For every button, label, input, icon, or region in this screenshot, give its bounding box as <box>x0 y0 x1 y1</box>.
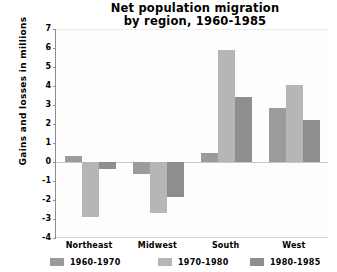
chart-title: Net population migration by region, 1960… <box>60 2 330 28</box>
category-label-south: South <box>212 241 239 250</box>
y-axis-tick-label: 2 <box>29 120 51 128</box>
y-axis-tick-label: 3 <box>29 101 51 109</box>
legend-item-1980-1985[interactable]: 1980-1985 <box>250 255 321 269</box>
y-axis-tick-label: -2 <box>29 196 51 204</box>
y-axis-tick-mark <box>53 200 56 201</box>
legend-item-1960-1970[interactable]: 1960-1970 <box>50 255 121 269</box>
legend-swatch-icon <box>50 258 64 266</box>
chart-legend: 1960-19701970-19801980-1985 <box>0 255 337 272</box>
legend-item-1970-1980[interactable]: 1970-1980 <box>158 255 229 269</box>
bar-west-1970-1980 <box>286 85 303 162</box>
y-axis-tick-label: -4 <box>29 234 51 242</box>
y-axis-tick-mark <box>53 67 56 68</box>
legend-label: 1970-1980 <box>178 258 229 267</box>
category-label-midwest: Midwest <box>138 241 177 250</box>
y-axis-tick-label: 4 <box>29 82 51 90</box>
bar-northeast-1960-1970 <box>65 156 82 162</box>
y-axis-tick-mark <box>53 48 56 49</box>
y-axis-tick-label: 7 <box>29 25 51 33</box>
y-axis-tick-label: 6 <box>29 44 51 52</box>
bar-midwest-1980-1985 <box>167 162 184 197</box>
category-label-northeast: Northeast <box>66 241 113 250</box>
y-axis-tick-mark <box>53 86 56 87</box>
y-axis-tick-mark <box>53 238 56 239</box>
migration-bar-chart: Net population migration by region, 1960… <box>0 0 337 272</box>
y-axis-tick-label: 0 <box>29 158 51 166</box>
y-axis-tick-label: 1 <box>29 139 51 147</box>
y-axis-tick-label: -1 <box>29 177 51 185</box>
bar-northeast-1980-1985 <box>99 162 116 169</box>
y-axis-tick-mark <box>53 219 56 220</box>
y-axis-tick-mark <box>53 124 56 125</box>
bar-south-1960-1970 <box>201 153 218 162</box>
plot-bottom-border <box>56 237 328 238</box>
legend-swatch-icon <box>158 258 172 266</box>
category-label-west: West <box>282 241 305 250</box>
chart-title-line-2: by region, 1960-1985 <box>60 15 330 28</box>
plot-top-border <box>56 29 328 30</box>
y-axis-tick-label: 5 <box>29 63 51 71</box>
legend-label: 1960-1970 <box>70 258 121 267</box>
y-axis-title: Gains and losses in millions <box>18 16 28 166</box>
bar-midwest-1960-1970 <box>133 162 150 174</box>
plot-area: 76543210-1-2-3-4 <box>55 29 328 238</box>
bar-south-1970-1980 <box>218 50 235 162</box>
y-axis-tick-mark <box>53 29 56 30</box>
bar-south-1980-1985 <box>235 97 252 162</box>
bar-midwest-1970-1980 <box>150 162 167 213</box>
y-axis-tick-mark <box>53 181 56 182</box>
y-axis-tick-mark <box>53 105 56 106</box>
bar-northeast-1970-1980 <box>82 162 99 217</box>
bar-west-1960-1970 <box>269 108 286 162</box>
y-axis-tick-mark <box>53 162 56 163</box>
y-axis-tick-label: -3 <box>29 215 51 223</box>
bar-west-1980-1985 <box>303 120 320 162</box>
y-axis-tick-mark <box>53 143 56 144</box>
legend-swatch-icon <box>250 258 264 266</box>
legend-label: 1980-1985 <box>270 258 321 267</box>
